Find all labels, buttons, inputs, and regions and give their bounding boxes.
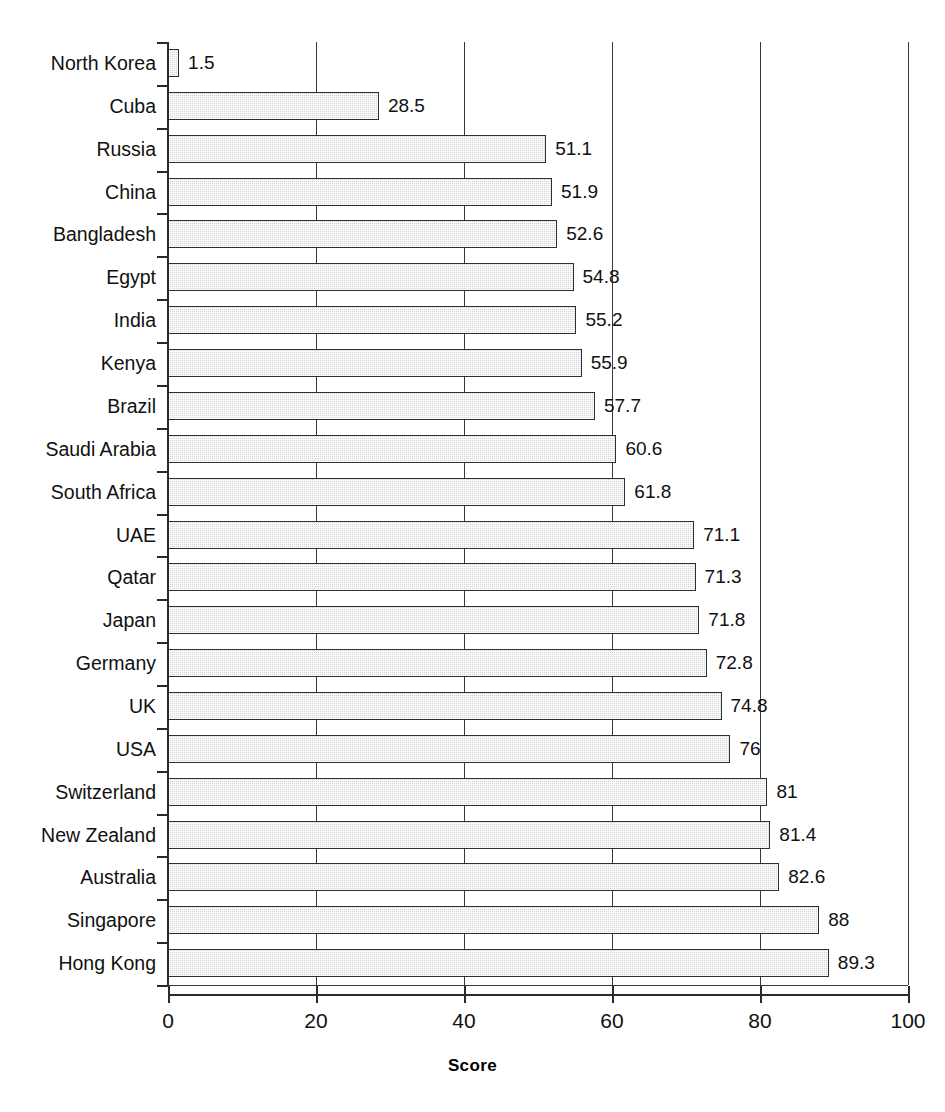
bar[interactable] xyxy=(168,949,829,977)
bar[interactable] xyxy=(168,906,819,934)
category-label: Saudi Arabia xyxy=(6,428,156,471)
bar-value-label: 28.5 xyxy=(388,93,425,119)
bar[interactable] xyxy=(168,263,574,291)
x-axis-tick xyxy=(168,986,170,1003)
bar-row: 88 xyxy=(168,899,908,942)
bar-row: 55.9 xyxy=(168,342,908,385)
category-label: Bangladesh xyxy=(6,213,156,256)
category-label: Japan xyxy=(6,599,156,642)
bar-row: 74.8 xyxy=(168,685,908,728)
bar[interactable] xyxy=(168,563,696,591)
y-axis-category-labels: North KoreaCubaRussiaChinaBangladeshEgyp… xyxy=(0,42,156,985)
bar-row: 71.1 xyxy=(168,514,908,557)
bar-value-label: 57.7 xyxy=(604,393,641,419)
category-label: Germany xyxy=(6,642,156,685)
x-axis-tick xyxy=(464,986,466,1003)
y-axis-line xyxy=(167,42,169,986)
bar-row: 71.8 xyxy=(168,599,908,642)
category-label: Switzerland xyxy=(6,771,156,814)
category-label: UAE xyxy=(6,514,156,557)
bar-row: 57.7 xyxy=(168,385,908,428)
category-label: South Africa xyxy=(6,471,156,514)
bar-row: 1.5 xyxy=(168,42,908,85)
category-label: USA xyxy=(6,728,156,771)
bar-value-label: 51.1 xyxy=(555,136,592,162)
x-axis-tick-label: 0 xyxy=(162,1008,174,1034)
x-axis-tick xyxy=(316,986,318,1003)
bar-value-label: 71.8 xyxy=(708,607,745,633)
x-axis-tick xyxy=(908,986,910,1003)
bar-value-label: 61.8 xyxy=(634,479,671,505)
bar-value-label: 60.6 xyxy=(625,436,662,462)
bar-row: 81 xyxy=(168,771,908,814)
gridline-100 xyxy=(908,42,909,985)
category-label: Cuba xyxy=(6,85,156,128)
x-axis-tick-label: 40 xyxy=(452,1008,475,1034)
bar[interactable] xyxy=(168,92,379,120)
bar-row: 28.5 xyxy=(168,85,908,128)
category-label: India xyxy=(6,299,156,342)
bar-value-label: 55.2 xyxy=(585,307,622,333)
bar[interactable] xyxy=(168,649,707,677)
x-axis-tick-label: 100 xyxy=(890,1008,925,1034)
bar-value-label: 88 xyxy=(828,907,849,933)
bar-row: 71.3 xyxy=(168,556,908,599)
x-axis-tick xyxy=(760,986,762,1003)
category-label: Egypt xyxy=(6,256,156,299)
category-label: Qatar xyxy=(6,556,156,599)
bar-value-label: 55.9 xyxy=(591,350,628,376)
category-label: Singapore xyxy=(6,899,156,942)
bar-row: 89.3 xyxy=(168,942,908,985)
x-axis-line xyxy=(168,994,908,996)
bar-value-label: 81 xyxy=(776,779,797,805)
bar[interactable] xyxy=(168,392,595,420)
x-axis-title: Score xyxy=(0,1056,945,1076)
bar-row: 55.2 xyxy=(168,299,908,342)
bar[interactable] xyxy=(168,521,694,549)
bar[interactable] xyxy=(168,135,546,163)
bar-chart: North KoreaCubaRussiaChinaBangladeshEgyp… xyxy=(0,0,945,1112)
bar[interactable] xyxy=(168,306,576,334)
bar-row: 82.6 xyxy=(168,856,908,899)
category-label: Hong Kong xyxy=(6,942,156,985)
bar[interactable] xyxy=(168,435,616,463)
bar-value-label: 1.5 xyxy=(188,50,214,76)
x-axis-tick-label: 60 xyxy=(600,1008,623,1034)
bar[interactable] xyxy=(168,863,779,891)
bar-value-label: 71.1 xyxy=(703,522,740,548)
bar-row: 72.8 xyxy=(168,642,908,685)
bar[interactable] xyxy=(168,220,557,248)
x-axis-tick xyxy=(612,986,614,1003)
bar[interactable] xyxy=(168,778,767,806)
plot-bottom-border xyxy=(168,985,908,986)
bar-value-label: 72.8 xyxy=(716,650,753,676)
bar-value-label: 76 xyxy=(739,736,760,762)
bar-row: 61.8 xyxy=(168,471,908,514)
bar-value-label: 71.3 xyxy=(705,564,742,590)
bar[interactable] xyxy=(168,821,770,849)
bar-value-label: 54.8 xyxy=(583,264,620,290)
bar[interactable] xyxy=(168,178,552,206)
category-label: Kenya xyxy=(6,342,156,385)
category-label: Australia xyxy=(6,856,156,899)
bar-value-label: 51.9 xyxy=(561,179,598,205)
bar-row: 51.9 xyxy=(168,171,908,214)
bar[interactable] xyxy=(168,349,582,377)
bar-value-label: 82.6 xyxy=(788,864,825,890)
bar[interactable] xyxy=(168,692,722,720)
category-label: North Korea xyxy=(6,42,156,85)
bar[interactable] xyxy=(168,478,625,506)
bar[interactable] xyxy=(168,735,730,763)
bar-value-label: 81.4 xyxy=(779,822,816,848)
bar[interactable] xyxy=(168,606,699,634)
bar-row: 76 xyxy=(168,728,908,771)
x-axis-tick-label: 20 xyxy=(304,1008,327,1034)
category-label: New Zealand xyxy=(6,814,156,857)
bar-row: 60.6 xyxy=(168,428,908,471)
bar-row: 54.8 xyxy=(168,256,908,299)
bar[interactable] xyxy=(168,49,179,77)
bar-value-label: 74.8 xyxy=(731,693,768,719)
bar-row: 52.6 xyxy=(168,213,908,256)
category-label: UK xyxy=(6,685,156,728)
x-axis-tick-label: 80 xyxy=(748,1008,771,1034)
